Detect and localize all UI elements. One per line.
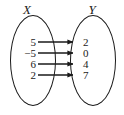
mapping-diagram: X Y 5−562 2047 <box>0 0 124 115</box>
domain-value: 2 <box>2 70 36 81</box>
domain-values-column: 5−562 <box>2 0 36 115</box>
range-values-column: 2047 <box>83 0 103 115</box>
range-value: 7 <box>83 70 103 81</box>
